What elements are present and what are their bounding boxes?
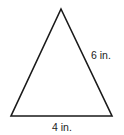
triangle-diagram: 6 in. 4 in.: [0, 0, 124, 135]
triangle: [11, 9, 112, 116]
side-length-label: 6 in.: [91, 49, 111, 61]
base-length-label: 4 in.: [52, 121, 72, 133]
